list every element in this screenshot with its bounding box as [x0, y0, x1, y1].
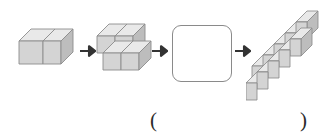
- cube-front-face: [121, 53, 139, 70]
- figure-1-cubes: [16, 26, 78, 74]
- cube-front-face: [246, 83, 257, 100]
- arrow-2: [152, 44, 168, 60]
- right-arrow-icon: [80, 44, 96, 58]
- cube-front-face: [43, 41, 61, 64]
- figure-2: [96, 22, 154, 82]
- cube-front-face: [268, 61, 279, 78]
- figure-1: [16, 26, 78, 74]
- sequence-row: [0, 0, 325, 108]
- right-arrow-icon: [152, 44, 168, 58]
- figure-2-cubes: [96, 22, 154, 82]
- cube-sequence-puzzle: ( ): [0, 0, 325, 137]
- figure-3-blank-answer-box[interactable]: [172, 25, 232, 82]
- answer-open-paren: (: [150, 110, 157, 131]
- cube-front-face: [257, 72, 268, 89]
- answer-close-paren: ): [300, 110, 307, 131]
- cube-front-face: [103, 53, 121, 70]
- arrow-1: [80, 44, 96, 60]
- cube-front-face: [19, 41, 43, 64]
- cube-front-face: [290, 39, 301, 56]
- cube-front-face: [279, 50, 290, 67]
- figure-4: [246, 8, 320, 104]
- figure-4-cubes: [246, 8, 320, 104]
